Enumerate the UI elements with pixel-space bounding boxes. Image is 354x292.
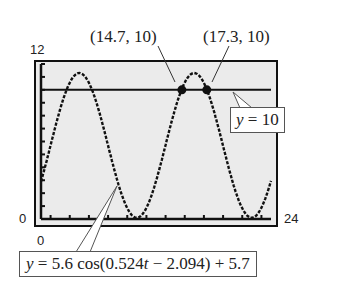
x-max-label: 24 (284, 211, 298, 226)
x-min-label: 0 (37, 233, 44, 248)
chart-canvas (0, 0, 354, 292)
callout-y-equals-10: y = 10 (230, 107, 285, 133)
y-min-label: 0 (19, 211, 26, 226)
plot-background (35, 61, 277, 226)
chart-figure: 12 0 0 24 (14.7, 10) (17.3, 10) y = 10 y… (0, 0, 354, 292)
intersection-point-2 (202, 85, 211, 94)
point-label-1: (14.7, 10) (90, 27, 157, 47)
y-max-label: 12 (30, 42, 44, 57)
intersection-point-1 (177, 85, 186, 94)
callout-equation: y = 5.6 cos(0.524t − 2.094) + 5.7 (19, 251, 257, 277)
point-label-2: (17.3, 10) (203, 27, 270, 47)
